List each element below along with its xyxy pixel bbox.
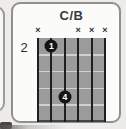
- fretboard-grid: 14: [37, 38, 106, 122]
- muted-string-marker: ×: [89, 24, 94, 36]
- muted-strings-row: ××××: [37, 24, 106, 36]
- chord-name: C/B: [35, 8, 108, 23]
- chord-card: C/B 2 ×××× 14: [11, 2, 121, 123]
- finger-dot: 4: [58, 90, 71, 103]
- string-line: [91, 38, 93, 122]
- starting-fret-label: 2: [15, 40, 33, 55]
- string-line: [104, 38, 106, 122]
- photo-background: C/B 2 ×××× 14: [0, 0, 126, 129]
- adjacent-chord-card-edge: [0, 6, 5, 112]
- finger-dot: 1: [45, 40, 58, 53]
- string-line: [77, 38, 79, 122]
- muted-string-marker: ×: [35, 24, 40, 36]
- scan-artifact-shadow: [0, 125, 70, 129]
- fret-line: [37, 88, 106, 90]
- muted-string-marker: ×: [76, 24, 81, 36]
- muted-string-marker: ×: [102, 24, 107, 36]
- fret-line: [37, 104, 106, 106]
- fretboard-bottom-edge: [37, 120, 106, 123]
- string-line: [37, 38, 39, 122]
- fret-line: [37, 71, 106, 73]
- string-line: [64, 38, 66, 122]
- fret-line: [37, 54, 106, 56]
